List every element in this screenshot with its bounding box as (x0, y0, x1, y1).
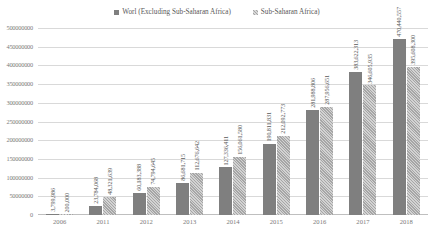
bar[interactable] (349, 72, 362, 215)
bar-slot: 86,681,715 (176, 28, 189, 215)
legend-item-series-2[interactable]: Sub-Saharan Africa) (253, 8, 320, 16)
bar[interactable] (263, 144, 276, 215)
bar[interactable] (407, 67, 420, 215)
legend-label-series-1: Worl (Excluding Sub-Saharan Africa) (122, 8, 231, 16)
legend-swatch-icon-series-1 (114, 10, 119, 15)
bar-slot: 200,000 (60, 28, 73, 215)
x-axis-tick-label: 2015 (255, 218, 298, 225)
bar[interactable] (393, 39, 406, 215)
bar-slot: 383,622,313 (349, 28, 362, 215)
x-axis-tick-labels: 200620112012201320142015201620172018 (38, 218, 428, 225)
bar-value-label: 74,794,645 (150, 158, 156, 185)
bar-value-label: 287,956,651 (324, 75, 330, 105)
x-axis-tick-label: 2018 (385, 218, 428, 225)
bar-slot: 212,092,773 (277, 28, 290, 215)
bar-group: 60,183,38874,794,645 (125, 28, 168, 215)
x-axis-tick-label: 2012 (125, 218, 168, 225)
bar-value-label: 23,784,068 (93, 177, 99, 204)
bar[interactable] (133, 193, 146, 216)
y-axis-tick-label: 450000000 (6, 44, 33, 50)
y-axis-tick-label: 200000000 (6, 137, 33, 143)
legend-label-series-2: Sub-Saharan Africa) (261, 8, 320, 16)
bar-value-label: 156,061,580 (237, 125, 243, 155)
bar[interactable] (233, 157, 246, 215)
bar-slot: 48,321,639 (103, 28, 116, 215)
x-axis-tick-label: 2016 (298, 218, 341, 225)
legend-item-series-1[interactable]: Worl (Excluding Sub-Saharan Africa) (114, 8, 231, 16)
x-axis-tick-label: 2013 (168, 218, 211, 225)
bar[interactable] (219, 167, 232, 215)
y-axis-tick-label: 50000000 (9, 193, 33, 199)
bar-slot: 127,336,411 (219, 28, 232, 215)
bar[interactable] (277, 136, 290, 215)
bar-value-label: 127,336,411 (223, 136, 229, 166)
y-axis-tick-label: 500000000 (6, 25, 33, 31)
bar-group: 190,811,831212,092,773 (255, 28, 298, 215)
bar-slot: 156,061,580 (233, 28, 246, 215)
x-axis-tick-label: 2014 (211, 218, 254, 225)
y-axis-tick-label: 300000000 (6, 100, 33, 106)
bar-value-label: 212,092,773 (280, 104, 286, 134)
x-axis-tick-label: 2011 (81, 218, 124, 225)
bar-slot: 60,183,388 (133, 28, 146, 215)
bar[interactable] (306, 110, 319, 215)
bar[interactable] (103, 197, 116, 215)
bar[interactable] (176, 183, 189, 215)
y-axis-tick-label: 250000000 (6, 118, 33, 124)
bar-value-label: 60,183,388 (136, 164, 142, 191)
bar-group: 86,681,715112,676,642 (168, 28, 211, 215)
y-axis-tick-labels: 5000000004500000004000000003500000003000… (0, 28, 36, 215)
bar-slot: 281,988,806 (306, 28, 319, 215)
y-axis-tick-label: 100000000 (6, 174, 33, 180)
bar[interactable] (60, 214, 73, 215)
bar-value-label: 190,811,831 (266, 112, 272, 142)
y-axis-tick-label: 0 (30, 212, 33, 218)
bar[interactable] (46, 214, 59, 215)
bar-slot: 74,794,645 (147, 28, 160, 215)
bar-value-label: 3,799,986 (50, 188, 56, 212)
bar-slot: 190,811,831 (263, 28, 276, 215)
bar-value-label: 470,440,557 (396, 7, 402, 37)
bar-slot: 395,608,300 (407, 28, 420, 215)
bar-group: 3,799,986200,000 (38, 28, 81, 215)
y-axis-tick-label: 150000000 (6, 156, 33, 162)
bar-slot: 287,956,651 (320, 28, 333, 215)
bar-value-label: 86,681,715 (180, 154, 186, 181)
bar-value-label: 395,608,300 (410, 35, 416, 65)
bar-slot: 470,440,557 (393, 28, 406, 215)
legend-swatch-icon-series-2 (253, 10, 258, 15)
bar-group: 383,622,313346,605,935 (341, 28, 384, 215)
bar-slot: 3,799,986 (46, 28, 59, 215)
bar[interactable] (89, 206, 102, 215)
plot-area: 3,799,986200,00023,784,06848,321,63960,1… (38, 28, 428, 215)
bar-value-label: 48,321,639 (107, 168, 113, 195)
y-axis-tick-label: 350000000 (6, 81, 33, 87)
bar-value-label: 112,676,642 (194, 141, 200, 171)
bar-group: 23,784,06848,321,639 (81, 28, 124, 215)
bar-groups: 3,799,986200,00023,784,06848,321,63960,1… (38, 28, 428, 215)
bar-slot: 23,784,068 (89, 28, 102, 215)
chart-legend: Worl (Excluding Sub-Saharan Africa) Sub-… (0, 8, 434, 16)
bar[interactable] (363, 85, 376, 215)
x-axis-tick-label: 2006 (38, 218, 81, 225)
bar-group: 281,988,806287,956,651 (298, 28, 341, 215)
x-axis-tick-label: 2017 (341, 218, 384, 225)
bar-value-label: 281,988,806 (310, 78, 316, 108)
bar[interactable] (147, 187, 160, 215)
bar-group: 127,336,411156,061,580 (211, 28, 254, 215)
bar[interactable] (320, 107, 333, 215)
bar-group: 470,440,557395,608,300 (385, 28, 428, 215)
bar-value-label: 383,622,313 (353, 40, 359, 70)
bar[interactable] (190, 173, 203, 215)
bar-value-label: 200,000 (64, 193, 70, 212)
bar-value-label: 346,605,935 (367, 54, 373, 84)
y-axis-tick-label: 400000000 (6, 62, 33, 68)
bar-slot: 346,605,935 (363, 28, 376, 215)
bar-chart: Worl (Excluding Sub-Saharan Africa) Sub-… (0, 0, 434, 236)
bar-slot: 112,676,642 (190, 28, 203, 215)
